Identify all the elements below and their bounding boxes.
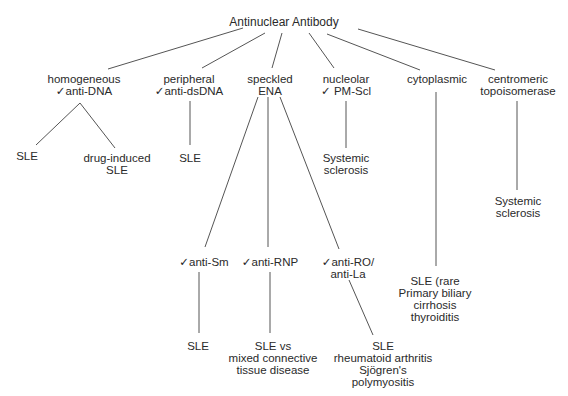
node-peripheral-sle: SLE bbox=[179, 152, 201, 164]
check-icon: ✓ bbox=[321, 85, 331, 97]
node-sm-sle: SLE bbox=[187, 340, 209, 352]
node-cytoplasmic-diseases: SLE (rare Primary biliary cirrhosis thyr… bbox=[399, 275, 472, 323]
check-icon: ✓ bbox=[179, 256, 189, 268]
node-homogeneous: homogeneous ✓anti-DNA bbox=[48, 73, 121, 97]
check-icon: ✓ bbox=[322, 256, 332, 268]
node-centromeric-systemic-sclerosis: Systemic sclerosis bbox=[495, 195, 542, 219]
node-ro-la-diseases: SLE rheumatoid arthritis Sjögren's polym… bbox=[334, 340, 432, 388]
node-antinuclear-antibody: Antinuclear Antibody bbox=[229, 16, 338, 28]
connector-lines bbox=[0, 0, 568, 396]
node-cytoplasmic: cytoplasmic bbox=[407, 73, 467, 85]
check-icon: ✓ bbox=[56, 85, 66, 97]
node-centromeric: centromeric topoisomerase bbox=[480, 73, 555, 97]
check-icon: ✓ bbox=[155, 85, 165, 97]
node-drug-induced-sle: drug-induced SLE bbox=[83, 152, 150, 176]
node-anti-ro-la: ✓anti-RO/ anti-La bbox=[322, 256, 374, 280]
node-speckled: speckled ENA bbox=[247, 73, 292, 97]
node-homogeneous-sle: SLE bbox=[16, 150, 38, 162]
check-icon: ✓ bbox=[242, 256, 252, 268]
node-anti-rnp: ✓anti-RNP bbox=[242, 256, 298, 268]
node-nucleolar: nucleolar ✓ PM-Scl bbox=[321, 73, 371, 97]
node-nucleolar-systemic-sclerosis: Systemic sclerosis bbox=[323, 152, 370, 176]
node-peripheral: peripheral ✓anti-dsDNA bbox=[155, 73, 223, 97]
node-rnp-diseases: SLE vs mixed connective tissue disease bbox=[229, 340, 318, 376]
node-anti-sm: ✓anti-Sm bbox=[179, 256, 228, 268]
